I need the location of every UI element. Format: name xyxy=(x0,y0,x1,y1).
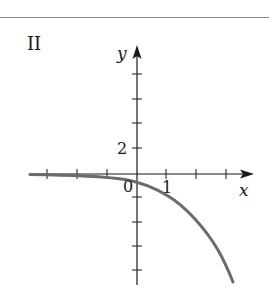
x-tick-label-1: 1 xyxy=(162,178,172,197)
y-axis-label: y xyxy=(116,43,127,63)
y-tick-label-2: 2 xyxy=(117,139,127,158)
y-axis xyxy=(132,45,142,285)
origin-label: 0 xyxy=(123,177,133,196)
graph: y x 2 0 1 xyxy=(0,0,269,295)
x-axis-label: x xyxy=(239,180,249,200)
